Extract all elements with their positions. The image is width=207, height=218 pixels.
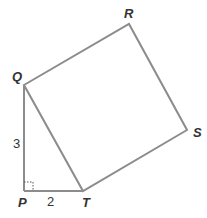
side-label-pt: 2 <box>47 195 54 208</box>
side-label-pq: 3 <box>13 137 20 150</box>
vertex-label-q: Q <box>12 70 22 83</box>
geometry-figure: Q R S P T 3 2 <box>0 0 207 218</box>
square-qrst <box>24 24 187 191</box>
figure-canvas <box>0 0 207 218</box>
vertex-label-s: S <box>193 126 202 139</box>
right-angle-marker <box>24 182 33 191</box>
vertex-label-t: T <box>82 196 90 209</box>
vertex-label-p: P <box>18 196 27 209</box>
vertex-label-r: R <box>124 7 133 20</box>
